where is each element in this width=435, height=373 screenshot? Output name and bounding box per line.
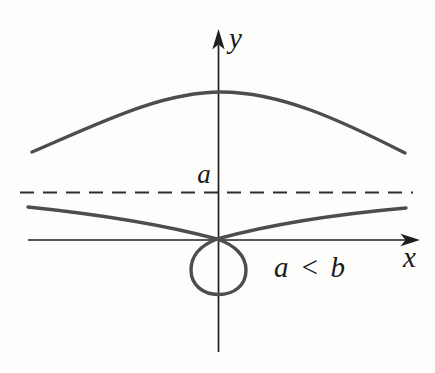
asymptote-label-a: a — [197, 159, 211, 189]
condition-label-a-less-than-b: a < b — [274, 251, 347, 283]
x-axis-label: x — [402, 241, 416, 273]
figure-canvas: y x a a < b — [0, 0, 435, 373]
conchoid-curve-figure: y x a a < b — [0, 0, 435, 373]
figure-background — [0, 0, 435, 373]
y-axis-label: y — [226, 22, 242, 54]
